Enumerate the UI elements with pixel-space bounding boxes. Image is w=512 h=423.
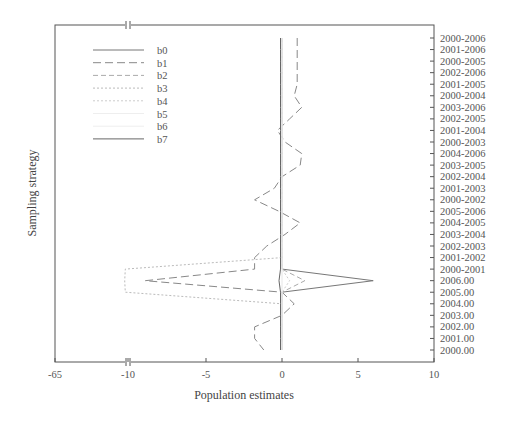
plot-frame bbox=[55, 21, 434, 366]
legend-label: b7 bbox=[157, 134, 168, 145]
x-tick-label: 5 bbox=[355, 369, 360, 380]
legend-label: b0 bbox=[157, 45, 168, 56]
legend-label: b1 bbox=[157, 58, 168, 69]
legend-label: b4 bbox=[157, 96, 168, 107]
y-tick-label: 2000-2001 bbox=[440, 264, 486, 275]
y-tick-label: 2001-2003 bbox=[440, 183, 486, 194]
x-tick-label: 0 bbox=[279, 369, 284, 380]
y-tick-label: 2003-2005 bbox=[440, 160, 486, 171]
series-b7 bbox=[279, 38, 281, 350]
y-tick-label: 2003-2006 bbox=[440, 102, 486, 113]
x-axis-ticks: -65-10-50510 bbox=[48, 358, 439, 380]
y-tick-label: 2002-2006 bbox=[440, 67, 486, 78]
y-tick-label: 2005-2006 bbox=[440, 206, 486, 217]
y-tick-label: 2001-2005 bbox=[440, 79, 486, 90]
legend-label: b2 bbox=[157, 70, 168, 81]
y-tick-label: 2004-2005 bbox=[440, 217, 486, 228]
series-b0 bbox=[282, 38, 373, 350]
x-axis-title: Population estimates bbox=[194, 388, 294, 402]
y-tick-label: 2002.00 bbox=[440, 321, 474, 332]
y-tick-label: 2002-2005 bbox=[440, 113, 486, 124]
legend-label: b5 bbox=[157, 109, 168, 120]
y-tick-label: 2001-2004 bbox=[440, 125, 486, 136]
legend: b0b1b2b3b4b5b6b7 bbox=[93, 45, 168, 145]
y-tick-label: 2000-2002 bbox=[440, 194, 486, 205]
y-tick-label: 2000-2005 bbox=[440, 56, 486, 67]
y-tick-label: 2004-2006 bbox=[440, 148, 486, 159]
y-tick-label: 2001-2006 bbox=[440, 44, 486, 55]
series-b3 bbox=[125, 38, 282, 350]
y-axis-ticks: 2000-20062001-20062000-20052002-20062001… bbox=[430, 33, 486, 356]
y-tick-label: 2001.00 bbox=[440, 333, 474, 344]
y-tick-label: 2000-2003 bbox=[440, 137, 486, 148]
y-tick-label: 2000-2004 bbox=[440, 90, 486, 101]
series-b4 bbox=[282, 38, 290, 350]
legend-label: b3 bbox=[157, 83, 168, 94]
chart: 2000-20062001-20062000-20052002-20062001… bbox=[0, 0, 512, 423]
legend-label: b6 bbox=[157, 121, 168, 132]
x-tick-label: 10 bbox=[429, 369, 440, 380]
y-tick-label: 2006.00 bbox=[440, 275, 474, 286]
x-tick-label: -65 bbox=[48, 369, 62, 380]
y-axis-title: Sampling strategy bbox=[25, 150, 39, 237]
y-tick-label: 2000.00 bbox=[440, 345, 474, 356]
y-tick-label: 2003-2004 bbox=[440, 229, 486, 240]
y-tick-label: 2005.00 bbox=[440, 287, 474, 298]
x-tick-label: -10 bbox=[121, 369, 135, 380]
y-tick-label: 2002-2003 bbox=[440, 241, 486, 252]
y-tick-label: 2002-2004 bbox=[440, 171, 486, 182]
y-tick-label: 2003.00 bbox=[440, 310, 474, 321]
y-tick-label: 2004.00 bbox=[440, 298, 474, 309]
y-tick-label: 2001-2002 bbox=[440, 252, 486, 263]
x-tick-label: -5 bbox=[202, 369, 211, 380]
y-tick-label: 2000-2006 bbox=[440, 33, 486, 44]
